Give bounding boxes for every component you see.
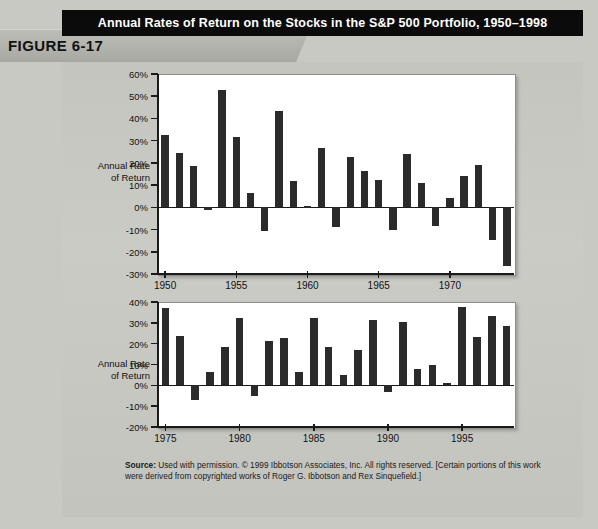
bar [432, 207, 439, 226]
x-tick-label: 1970 [439, 280, 461, 291]
figure-body-panel: Annual Rate of Return 60%50%40%30%20%10%… [62, 62, 583, 517]
y-axis-line [157, 74, 159, 274]
bar [475, 165, 482, 207]
bar [473, 337, 481, 385]
bar [251, 385, 259, 395]
x-tick-label: 1960 [296, 280, 318, 291]
y-tick-label: 50% [129, 91, 148, 102]
bar [399, 322, 407, 386]
bar [325, 347, 333, 386]
x-tick-label: 1990 [377, 433, 399, 444]
bar [204, 207, 211, 209]
bar [233, 137, 240, 207]
bar [429, 365, 437, 386]
x-tick-label: 1985 [303, 433, 325, 444]
y-tick-label: -20% [126, 246, 148, 257]
bar [458, 307, 466, 385]
x-tick-label: 1950 [154, 280, 176, 291]
bar [190, 166, 197, 207]
bar [332, 207, 339, 226]
y-tick-label: 20% [129, 157, 148, 168]
bar [384, 385, 392, 392]
y-tick-label: 40% [129, 113, 148, 124]
bar [261, 207, 268, 231]
x-tick-label: 1955 [225, 280, 247, 291]
source-label: Source: [125, 460, 156, 470]
figure-label: FIGURE 6-17 [0, 37, 103, 54]
y-tick-label: -10% [126, 224, 148, 235]
x-tick-mark [236, 271, 238, 278]
bar [265, 341, 273, 386]
x-tick-label: 1995 [451, 433, 473, 444]
x-tick-label: 1965 [368, 280, 390, 291]
bar [162, 308, 170, 386]
bar [375, 180, 382, 208]
x-tick-mark [449, 271, 451, 278]
y-tick-label: -10% [126, 401, 148, 412]
y-tick-label: 20% [129, 338, 148, 349]
x-tick-mark [378, 271, 380, 278]
bar [403, 154, 410, 207]
bar [446, 198, 453, 207]
bar [503, 207, 510, 266]
y-tick-label: 10% [129, 180, 148, 191]
y-tick-label: 0% [134, 202, 148, 213]
figure-title: Annual Rates of Return on the Stocks in … [98, 16, 548, 30]
source-note: Source: Used with permission. © 1999 Ibb… [125, 460, 557, 482]
bar [176, 336, 184, 386]
bar [414, 369, 422, 385]
x-tick-label: 1980 [228, 433, 250, 444]
plot-area-top: 60%50%40%30%20%10%0%-10%-20%-30%19501955… [62, 62, 583, 287]
x-axis-line [158, 273, 514, 275]
x-tick-mark [239, 424, 241, 431]
bar [161, 135, 168, 207]
bar [389, 207, 396, 229]
y-axis-line [157, 302, 159, 427]
bar [310, 318, 318, 385]
y-tick-label: 30% [129, 135, 148, 146]
bar [418, 183, 425, 208]
chart-panel-bottom: Annual Rate of Return 40%30%20%10%0%-10%… [62, 294, 583, 454]
x-tick-mark [307, 271, 309, 278]
y-tick-label: 10% [129, 359, 148, 370]
bar [347, 157, 354, 208]
bar [218, 90, 225, 207]
bar [318, 148, 325, 208]
bar [247, 193, 254, 208]
bar [361, 171, 368, 208]
bar [280, 338, 288, 385]
bar [369, 320, 377, 386]
bar [221, 347, 229, 385]
bar [295, 372, 303, 385]
x-tick-mark [461, 424, 463, 431]
y-tick-label: -30% [126, 269, 148, 280]
bar [236, 318, 244, 386]
x-tick-mark [313, 424, 315, 431]
x-tick-label: 1975 [154, 433, 176, 444]
source-text: Used with permission. © 1999 Ibbotson As… [125, 460, 541, 481]
bar [191, 385, 199, 400]
chart-panel-top: Annual Rate of Return 60%50%40%30%20%10%… [62, 62, 583, 287]
x-tick-mark [165, 424, 167, 431]
bar [354, 350, 362, 385]
figure-title-banner: Annual Rates of Return on the Stocks in … [62, 10, 583, 36]
bar [206, 372, 214, 386]
bar [489, 207, 496, 240]
x-tick-mark [164, 271, 166, 278]
y-tick-label: 30% [129, 317, 148, 328]
y-tick-label: 60% [129, 69, 148, 80]
bar [503, 326, 511, 386]
bar [304, 206, 311, 208]
bar [340, 375, 348, 386]
bar [290, 181, 297, 208]
bar [176, 153, 183, 207]
bar [275, 111, 282, 207]
y-tick-label: 0% [134, 380, 148, 391]
bar [460, 176, 467, 208]
y-tick-label: -20% [126, 422, 148, 433]
bar [443, 383, 451, 386]
x-tick-mark [387, 424, 389, 431]
bar [488, 316, 496, 386]
y-tick-label: 40% [129, 297, 148, 308]
plot-area-bottom: 40%30%20%10%0%-10%-20%197519801985199019… [62, 294, 583, 454]
